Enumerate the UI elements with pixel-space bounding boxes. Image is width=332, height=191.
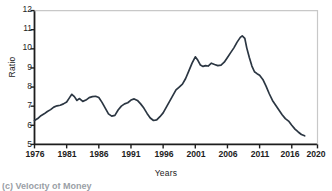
x-tick-label: 1986	[82, 149, 116, 159]
x-tick-label: 2011	[243, 149, 277, 159]
y-tick-label: 11	[10, 24, 32, 33]
x-tick-label: 1996	[147, 149, 181, 159]
axes-frame	[34, 10, 318, 145]
x-tick-label: 2020	[299, 149, 332, 159]
x-axis-tick-labels: 1976 1981 1986 1991 1996 2001 2006 2011 …	[0, 149, 332, 163]
x-tick-label: 2006	[211, 149, 245, 159]
y-tick-label: 6	[10, 121, 32, 130]
data-series-line	[35, 36, 305, 136]
x-tick-label: 1981	[50, 149, 84, 159]
chart-figure: Ratio 12 11 10 9 8 7 6 5 1976 1981 1986 …	[0, 0, 332, 191]
y-tick-label: 9	[10, 63, 32, 72]
figure-caption-text: (c) Velocity of Money	[2, 183, 182, 191]
x-tick-label: 2001	[179, 149, 213, 159]
y-tick-label: 10	[10, 43, 32, 52]
x-tick-label: 1991	[114, 149, 148, 159]
y-tick-label: 7	[10, 101, 32, 110]
y-tick-label: 8	[10, 82, 32, 91]
figure-caption-clipped: (c) Velocity of Money	[2, 183, 182, 191]
y-tick-label: 12	[10, 5, 32, 14]
y-tick-label: 5	[10, 140, 32, 149]
x-tick-label: 1976	[18, 149, 52, 159]
x-axis-title: Years	[0, 168, 332, 178]
